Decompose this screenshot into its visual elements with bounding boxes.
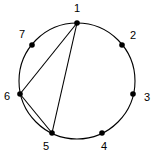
graph-nodes-group xyxy=(17,20,136,136)
graph-edges-group xyxy=(20,23,77,133)
vertex-label-7: 7 xyxy=(19,28,25,40)
vertex-node-5 xyxy=(49,130,55,136)
vertex-node-6 xyxy=(17,91,23,97)
circular-graph-svg: 1234567 xyxy=(0,0,159,155)
graph-figure: 1234567 xyxy=(0,0,159,155)
vertex-label-3: 3 xyxy=(144,91,150,103)
outer-circle xyxy=(19,23,135,139)
vertex-label-5: 5 xyxy=(43,140,49,152)
vertex-node-2 xyxy=(119,42,125,48)
vertex-label-2: 2 xyxy=(130,29,136,41)
vertex-label-4: 4 xyxy=(101,140,107,152)
vertex-label-6: 6 xyxy=(4,90,10,102)
graph-circle-group xyxy=(19,23,135,139)
vertex-node-7 xyxy=(29,42,35,48)
graph-edge-6-5 xyxy=(20,94,52,133)
graph-edge-1-5 xyxy=(52,23,77,133)
vertex-node-1 xyxy=(74,20,80,26)
vertex-label-1: 1 xyxy=(74,2,80,14)
vertex-node-3 xyxy=(130,91,136,97)
vertex-node-4 xyxy=(99,130,105,136)
